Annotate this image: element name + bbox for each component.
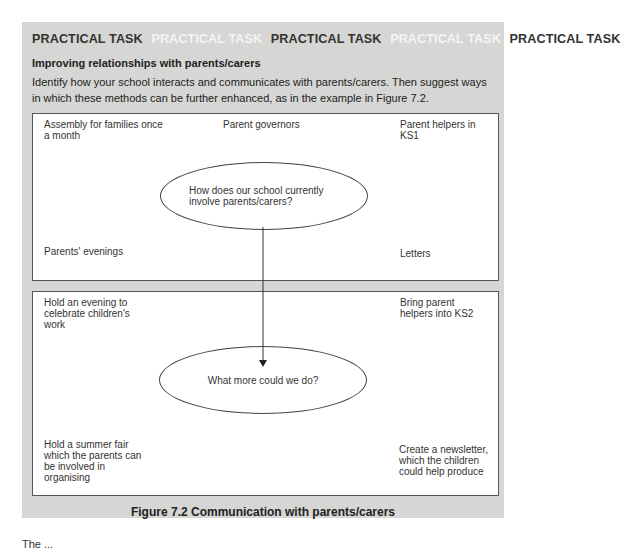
trailing-body-text: The ... bbox=[22, 538, 53, 550]
figure-caption: Figure 7.2 Communication with parents/ca… bbox=[22, 505, 504, 519]
connector-arrow-icon bbox=[22, 22, 504, 518]
practical-task-panel: PRACTICAL TASK PRACTICAL TASK PRACTICAL … bbox=[22, 22, 504, 518]
banner-label: PRACTICAL TASK bbox=[510, 32, 621, 46]
